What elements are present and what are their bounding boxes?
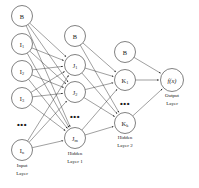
network-canvas: BI1I2I3•••InBJ1J2•••JmBK1•••Kkf(x) Input… [0, 0, 199, 188]
network-node[interactable]: B [115, 42, 136, 63]
layer-caption: Hidden [68, 151, 83, 156]
ellipsis-indicator: ••• [70, 112, 80, 121]
network-node[interactable]: Kk [115, 113, 136, 134]
connection-edges [26, 23, 162, 148]
ellipsis-indicator: ••• [17, 120, 27, 129]
network-node[interactable]: B [12, 6, 33, 27]
connection-edge [32, 141, 63, 148]
network-node[interactable]: B [65, 26, 86, 47]
connection-edge [28, 75, 69, 141]
layer-caption: Input [17, 163, 28, 168]
network-node[interactable]: In [12, 140, 33, 161]
connection-edge [32, 75, 64, 88]
connection-edge [32, 48, 64, 61]
connection-edge [27, 53, 69, 127]
layer-caption: Output [165, 93, 180, 98]
connection-edge [26, 26, 70, 127]
layer-captions: InputLayerHiddenLayer 1HiddenLayer 2Outp… [16, 93, 179, 176]
connection-edge [134, 57, 161, 73]
connection-edge [32, 93, 63, 96]
ellipsis-indicator: ••• [120, 99, 130, 108]
neural-network-diagram: BI1I2I3•••InBJ1J2•••JmBK1•••Kkf(x) Input… [0, 0, 199, 188]
connection-edge [133, 89, 163, 116]
connection-edge [29, 101, 67, 142]
connection-edge [80, 45, 119, 112]
network-node[interactable]: f(x) [161, 69, 184, 92]
network-node[interactable]: I2 [12, 61, 33, 82]
connection-edge [83, 43, 116, 72]
layer-caption: Layer [166, 101, 178, 106]
connection-edge [85, 83, 113, 90]
node-label: B [123, 49, 127, 56]
node-label: B [20, 13, 24, 20]
network-node[interactable]: K1 [115, 70, 136, 91]
network-node[interactable]: I1 [12, 34, 33, 55]
connection-edge [85, 68, 113, 77]
connection-edge [30, 23, 66, 57]
layer-caption: Layer 1 [67, 159, 83, 164]
network-nodes: BI1I2I3•••InBJ1J2•••JmBK1•••Kkf(x) [12, 6, 184, 161]
layer-caption: Layer [16, 171, 28, 176]
layer-caption: Layer 2 [117, 143, 133, 148]
network-node[interactable]: J2 [65, 82, 86, 103]
node-label: f(x) [168, 77, 177, 85]
network-node[interactable]: Jm [65, 128, 86, 149]
connection-edge [82, 73, 117, 114]
network-node[interactable]: I3 [12, 88, 33, 109]
connection-edge [84, 98, 115, 117]
node-label: B [73, 33, 77, 40]
connection-edge [82, 89, 117, 130]
network-node[interactable]: J1 [65, 55, 86, 76]
layer-caption: Hidden [118, 135, 133, 140]
connection-edge [85, 126, 113, 134]
